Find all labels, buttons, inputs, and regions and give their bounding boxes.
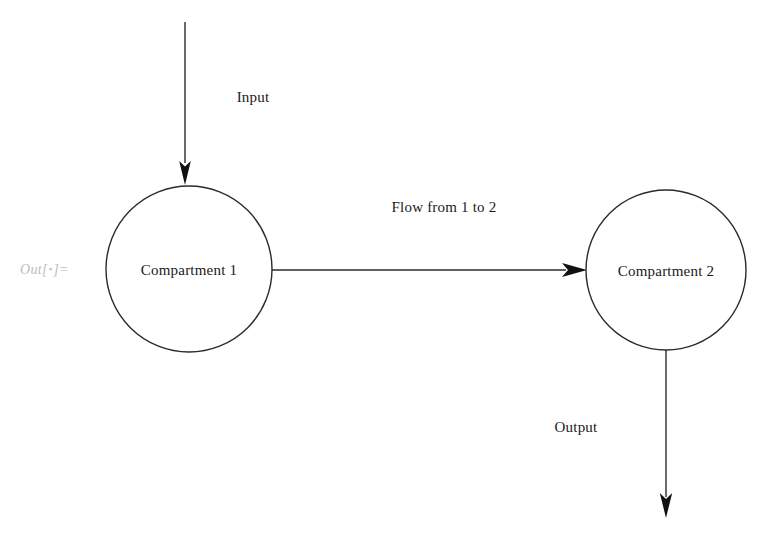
input-arrow (179, 22, 191, 185)
output-edge-label: Output (555, 419, 598, 436)
diagram-canvas: Out[▪]= Compartment 1 Compartment 2 Inpu… (0, 0, 776, 550)
flow-arrow (272, 263, 587, 277)
input-edge-label: Input (237, 89, 270, 106)
input-arrowhead (179, 161, 191, 185)
compartment-1-label: Compartment 1 (141, 262, 237, 279)
prompt-suffix: ]= (53, 262, 69, 277)
output-cell-prompt: Out[▪]= (20, 262, 69, 278)
output-arrow (660, 350, 672, 518)
flow-edge-label: Flow from 1 to 2 (392, 199, 497, 216)
prompt-prefix: Out[ (20, 262, 48, 277)
compartment-2-label: Compartment 2 (618, 263, 714, 280)
